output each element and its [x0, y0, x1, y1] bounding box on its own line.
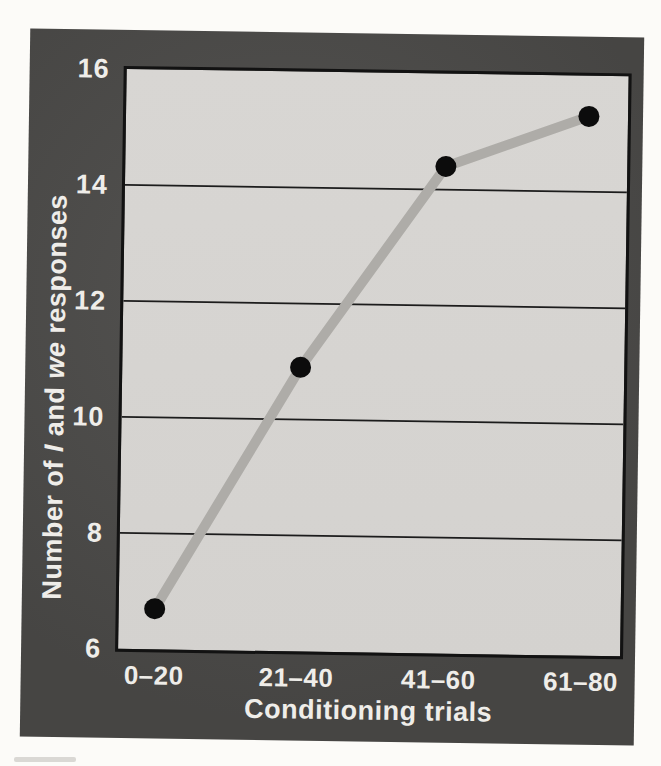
plot-area	[115, 66, 632, 659]
y-axis-tick-labels: 6810121416	[30, 28, 644, 37]
y-axis-title: Number of I and we responses	[33, 137, 77, 657]
x-axis-title: Conditioning trials	[168, 693, 568, 730]
figure-frame: Number of I and we responses 6810121416 …	[20, 28, 644, 745]
y-tick-label: 10	[38, 399, 104, 434]
y-tick-label: 16	[43, 51, 109, 86]
y-axis-title-italic-word: we	[40, 341, 71, 378]
y-tick-label: 12	[40, 283, 106, 318]
x-tick-label: 0–20	[88, 659, 218, 691]
cropped-caption-remnant	[14, 757, 76, 762]
x-tick-label: 41–60	[373, 664, 503, 696]
y-tick-label: 8	[37, 515, 103, 550]
grid-line	[125, 185, 627, 192]
y-tick-label: 14	[42, 167, 108, 202]
line-chart	[118, 69, 629, 656]
scanned-page: Number of I and we responses 6810121416 …	[0, 0, 661, 766]
grid-line	[123, 301, 625, 308]
x-axis-tick-labels: 0–2021–4041–6061–80	[30, 28, 644, 37]
x-tick-label: 21–40	[231, 662, 361, 694]
y-axis-title-italic-word: I	[39, 444, 69, 452]
x-tick-label: 61–80	[515, 666, 645, 698]
grid-line	[122, 417, 624, 424]
y-axis-title-text: responses	[41, 194, 73, 342]
